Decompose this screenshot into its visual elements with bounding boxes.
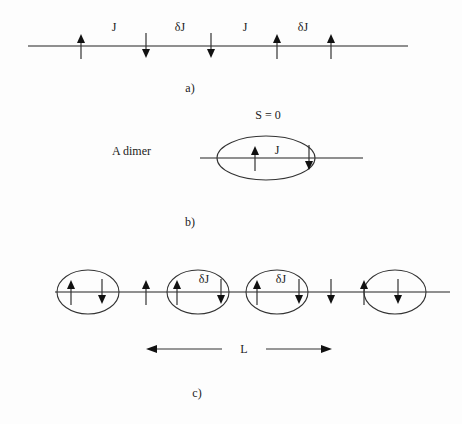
spin-arrowhead: [253, 280, 261, 289]
bond-label-a-2: δJ: [175, 20, 186, 34]
spin-arrowhead: [327, 34, 335, 43]
spin-arrowhead: [327, 295, 335, 304]
panel-c: δJ δJ L c): [55, 270, 450, 400]
spin-arrowhead: [67, 280, 75, 289]
dimer-title: A dimer: [112, 144, 151, 158]
spin-arrowhead: [207, 49, 215, 58]
bond-label-c-1: δJ: [199, 272, 210, 286]
spin-arrowhead: [217, 295, 225, 304]
bond-label-b: J: [275, 143, 280, 157]
length-arrow-right-head: [321, 345, 332, 353]
spin-arrowhead: [295, 295, 303, 304]
caption-b: b): [185, 215, 195, 229]
spin-arrowhead: [142, 280, 150, 289]
spin-arrowhead: [173, 280, 181, 289]
total-spin-label: S = 0: [255, 108, 280, 122]
bond-label-a-3: J: [243, 20, 248, 34]
spin-arrowhead: [98, 295, 106, 304]
spin-arrowhead: [251, 146, 259, 155]
caption-a: a): [185, 81, 194, 95]
length-arrow-left-head: [146, 345, 157, 353]
spin-arrowhead: [142, 49, 150, 58]
panel-b: S = 0 A dimer J b): [112, 108, 363, 229]
length-label: L: [240, 342, 247, 356]
bond-label-a-1: J: [112, 20, 117, 34]
spin-arrowhead: [394, 295, 402, 304]
spin-chain-figure: J δJ J δJ a) S = 0 A dimer J b) δJ δJ: [0, 0, 462, 424]
spin-arrowhead: [273, 34, 281, 43]
bond-label-a-4: δJ: [298, 20, 309, 34]
spin-arrowhead: [360, 280, 368, 289]
bond-label-c-2: δJ: [276, 272, 287, 286]
panel-a: J δJ J δJ a): [28, 20, 408, 95]
caption-c: c): [192, 386, 201, 400]
diagram-svg: J δJ J δJ a) S = 0 A dimer J b) δJ δJ: [0, 0, 462, 424]
spin-arrowhead: [77, 34, 85, 43]
